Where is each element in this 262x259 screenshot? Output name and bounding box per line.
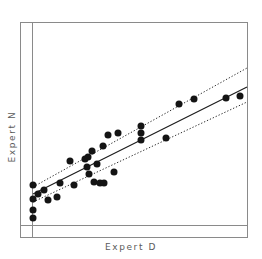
data-point	[84, 164, 91, 171]
data-point	[30, 215, 37, 222]
data-point	[105, 132, 112, 139]
data-point	[138, 123, 145, 130]
plot-canvas	[0, 0, 262, 259]
data-point	[237, 93, 244, 100]
data-point	[223, 95, 230, 102]
data-point	[163, 135, 170, 142]
plot-frame	[21, 23, 248, 238]
y-axis-label: Expert N	[8, 97, 17, 177]
data-point	[138, 130, 145, 137]
data-point	[138, 137, 145, 144]
data-point	[85, 154, 92, 161]
x-axis-label: Expert D	[0, 243, 262, 252]
data-point	[67, 158, 74, 165]
data-point	[191, 96, 198, 103]
data-point	[30, 196, 37, 203]
data-point	[94, 161, 101, 168]
scatter-plot-figure: Expert D Expert N	[0, 0, 262, 259]
data-point	[101, 180, 108, 187]
data-point	[57, 180, 64, 187]
data-point	[111, 169, 118, 176]
data-point	[91, 179, 98, 186]
data-point	[86, 171, 93, 178]
data-point	[89, 148, 96, 155]
frame-outer-rect	[21, 23, 248, 238]
data-point	[45, 197, 52, 204]
data-point	[115, 130, 122, 137]
data-point	[30, 182, 37, 189]
data-point	[176, 101, 183, 108]
data-point	[71, 182, 78, 189]
data-point	[41, 187, 48, 194]
data-point	[54, 194, 61, 201]
data-point	[100, 143, 107, 150]
data-point	[35, 191, 42, 198]
data-point	[30, 207, 37, 214]
